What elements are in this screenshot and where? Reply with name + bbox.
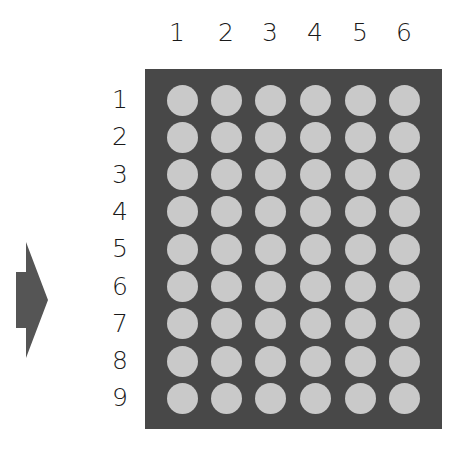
column-label: 3 bbox=[255, 20, 285, 45]
column-label: 2 bbox=[211, 20, 241, 45]
matrix-dot bbox=[389, 271, 420, 302]
matrix-dot bbox=[167, 308, 198, 339]
matrix-dot bbox=[255, 159, 286, 190]
matrix-dot bbox=[389, 122, 420, 153]
column-label: 4 bbox=[300, 20, 330, 45]
row-label: 9 bbox=[105, 385, 135, 410]
row-label: 7 bbox=[105, 311, 135, 336]
matrix-dot bbox=[300, 196, 331, 227]
matrix-dot bbox=[389, 234, 420, 265]
matrix-dot bbox=[345, 234, 376, 265]
matrix-dot bbox=[300, 308, 331, 339]
matrix-dot bbox=[345, 85, 376, 116]
row-label: 2 bbox=[105, 124, 135, 149]
matrix-dot bbox=[167, 85, 198, 116]
matrix-dot bbox=[211, 234, 242, 265]
matrix-dot bbox=[300, 383, 331, 414]
matrix-dot bbox=[255, 122, 286, 153]
matrix-dot bbox=[389, 383, 420, 414]
matrix-dot bbox=[255, 85, 286, 116]
matrix-dot bbox=[255, 234, 286, 265]
matrix-dot bbox=[300, 85, 331, 116]
matrix-dot bbox=[255, 308, 286, 339]
row-label: 5 bbox=[105, 236, 135, 261]
matrix-dot bbox=[255, 271, 286, 302]
matrix-dot bbox=[211, 271, 242, 302]
row-label: 1 bbox=[105, 87, 135, 112]
arrow-right-icon bbox=[14, 242, 50, 360]
matrix-dot bbox=[167, 383, 198, 414]
column-label: 5 bbox=[345, 20, 375, 45]
matrix-dot bbox=[389, 196, 420, 227]
matrix-dot bbox=[345, 383, 376, 414]
matrix-dot bbox=[389, 85, 420, 116]
matrix-dot bbox=[255, 196, 286, 227]
matrix-dot bbox=[300, 234, 331, 265]
matrix-dot bbox=[167, 159, 198, 190]
matrix-dot bbox=[300, 159, 331, 190]
matrix-dot bbox=[389, 346, 420, 377]
matrix-dot bbox=[211, 122, 242, 153]
matrix-dot bbox=[167, 234, 198, 265]
row-label: 6 bbox=[105, 274, 135, 299]
matrix-dot bbox=[300, 122, 331, 153]
matrix-dot bbox=[389, 159, 420, 190]
matrix-dot bbox=[300, 271, 331, 302]
matrix-dot bbox=[389, 308, 420, 339]
matrix-dot bbox=[345, 308, 376, 339]
matrix-dot bbox=[345, 271, 376, 302]
matrix-dot bbox=[167, 271, 198, 302]
matrix-dot bbox=[167, 196, 198, 227]
matrix-dot bbox=[345, 196, 376, 227]
row-label: 3 bbox=[105, 162, 135, 187]
dot-matrix-grid bbox=[145, 69, 442, 429]
matrix-dot bbox=[345, 346, 376, 377]
matrix-dot bbox=[345, 122, 376, 153]
matrix-dot bbox=[255, 383, 286, 414]
matrix-dot bbox=[300, 346, 331, 377]
matrix-dot bbox=[211, 196, 242, 227]
matrix-dot bbox=[255, 346, 286, 377]
column-label: 1 bbox=[162, 20, 192, 45]
matrix-dot bbox=[211, 308, 242, 339]
matrix-dot bbox=[167, 122, 198, 153]
column-label: 6 bbox=[389, 20, 419, 45]
row-label: 8 bbox=[105, 348, 135, 373]
row-label: 4 bbox=[105, 199, 135, 224]
matrix-dot bbox=[345, 159, 376, 190]
matrix-dot bbox=[211, 346, 242, 377]
matrix-dot bbox=[167, 346, 198, 377]
matrix-dot bbox=[211, 85, 242, 116]
matrix-dot bbox=[211, 383, 242, 414]
matrix-dot bbox=[211, 159, 242, 190]
